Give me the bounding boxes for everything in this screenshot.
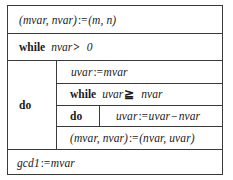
result-assignment-statement: gcd1:=mvar xyxy=(8,150,75,176)
result-assignment-row: gcd1:=mvar xyxy=(8,150,222,176)
greater-or-equal-operator: ≧ xyxy=(123,87,135,101)
outer-while-condition: whilenvar>0 xyxy=(8,34,93,60)
inner-while-row: whileuvar≧nvar xyxy=(57,84,222,106)
initial-assignment-statement: (mvar, nvar):=(m, n) xyxy=(8,6,116,33)
greater-than-operator: > xyxy=(72,41,81,53)
swap-assignment-row: (mvar, nvar):=(nvar, uvar) xyxy=(57,127,222,149)
outer-do-row: do uvar:=mvar whileuvar≧nvar do xyxy=(8,61,222,150)
inner-loop-body: uvar:=uvar−nvar xyxy=(99,106,222,127)
uvar-assignment-rhs: mvar xyxy=(104,66,128,78)
subtraction-assignment-lhs: uvar xyxy=(116,110,137,122)
inner-while-condition: whileuvar≧nvar xyxy=(57,84,162,105)
swap-assignment-lhs: (mvar, nvar) xyxy=(70,132,128,144)
minus-operator: − xyxy=(170,110,179,122)
uvar-assignment-statement: uvar:=mvar xyxy=(57,61,128,83)
outer-while-right-operand: 0 xyxy=(81,41,93,53)
inner-while-left-operand: uvar xyxy=(96,88,123,100)
result-assignment-lhs: gcd1 xyxy=(17,157,40,169)
assign-operator: := xyxy=(40,157,51,169)
while-keyword: while xyxy=(19,41,45,53)
outer-do-keyword: do xyxy=(8,61,56,149)
uvar-assignment-row: uvar:=mvar xyxy=(57,61,222,84)
outer-loop-body: uvar:=mvar whileuvar≧nvar do uvar:=uvar−… xyxy=(56,61,222,149)
assign-operator: := xyxy=(137,110,148,122)
subtraction-assignment-statement: uvar:=uvar−nvar xyxy=(100,106,200,127)
assign-operator: := xyxy=(92,66,103,78)
structured-box-diagram: (mvar, nvar):=(m, n) whilenvar>0 do uvar… xyxy=(7,5,223,175)
result-assignment-rhs: mvar xyxy=(51,157,75,169)
initial-assignment-rhs: (m, n) xyxy=(88,14,116,26)
subtraction-assignment-row: uvar:=uvar−nvar xyxy=(100,106,222,127)
inner-while-right-operand: nvar xyxy=(135,88,162,100)
swap-assignment-rhs: (nvar, uvar) xyxy=(139,132,195,144)
assign-operator: := xyxy=(128,132,139,144)
assign-operator: := xyxy=(77,14,88,26)
inner-do-keyword: do xyxy=(57,106,99,127)
initial-assignment-lhs: (mvar, nvar) xyxy=(19,14,77,26)
while-keyword: while xyxy=(70,88,96,100)
outer-while-row: whilenvar>0 xyxy=(8,34,222,61)
inner-do-row: do uvar:=uvar−nvar xyxy=(57,106,222,128)
outer-while-left-operand: nvar xyxy=(45,41,72,53)
swap-assignment-statement: (mvar, nvar):=(nvar, uvar) xyxy=(57,127,195,149)
initial-assignment-row: (mvar, nvar):=(m, n) xyxy=(8,6,222,34)
subtraction-left-operand: uvar xyxy=(149,110,170,122)
uvar-assignment-lhs: uvar xyxy=(71,66,92,78)
subtraction-right-operand: nvar xyxy=(179,110,200,122)
